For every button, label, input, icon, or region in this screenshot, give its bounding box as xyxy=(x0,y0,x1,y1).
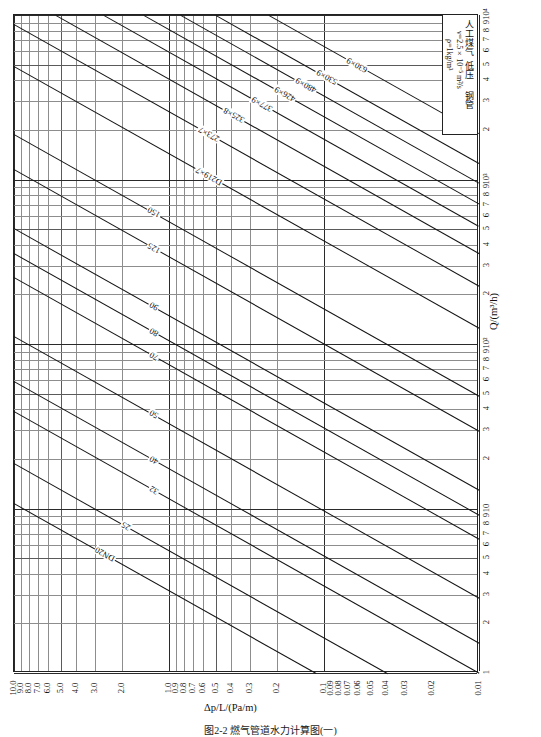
pressure-tick-22: 0.06 xyxy=(353,681,362,696)
pipe-label-80: 80 xyxy=(147,325,161,338)
pressure-tick-16: 0.3 xyxy=(245,683,254,694)
flow-tick-32: 6 xyxy=(482,48,491,52)
pipe-label-3258: 325×8 xyxy=(221,105,247,125)
pipe-label-32: 32 xyxy=(147,483,161,496)
flow-tick-27: 10³ xyxy=(482,173,491,184)
pipe-line-25 xyxy=(14,463,388,674)
pipe-label-2737: 273×7 xyxy=(196,124,222,144)
flow-tick-19: 2 xyxy=(482,291,491,295)
flow-tick-11: 3 xyxy=(482,427,491,431)
flow-tick-33: 7 xyxy=(482,37,491,41)
pipe-line-D2197 xyxy=(14,66,479,328)
pipe-line-125 xyxy=(14,169,479,431)
pipe-label-40: 40 xyxy=(147,453,161,466)
pipe-label-3779: 377×9 xyxy=(249,94,275,114)
flow-tick-23: 6 xyxy=(482,213,491,217)
flow-tick-1: 2 xyxy=(482,620,491,624)
pressure-tick-8: 2.0 xyxy=(117,683,126,694)
pressure-tick-4: 6.0 xyxy=(43,683,52,694)
flow-tick-22: 5 xyxy=(482,226,491,230)
legend-line-2: 低压 xyxy=(463,61,476,79)
legend-box: 人工煤气 低压 钢管 ν=2.5×10⁻⁵ m²/s ρ=1kg/m³ xyxy=(442,14,478,135)
legend-line-1: 人工煤气 xyxy=(463,20,476,56)
pressure-tick-7: 3.0 xyxy=(90,683,99,694)
pipe-line-2737 xyxy=(14,24,479,286)
flow-tick-13: 5 xyxy=(482,390,491,394)
pipe-label-DN20: DN20 xyxy=(92,544,117,563)
flow-tick-3: 4 xyxy=(482,571,491,575)
flow-tick-17: 9 xyxy=(482,348,491,352)
flow-tick-7: 8 xyxy=(482,521,491,525)
pipe-label-125: 125 xyxy=(145,240,163,255)
pressure-tick-27: 0.01 xyxy=(474,681,483,696)
legend-density: ρ=1kg/m³ xyxy=(445,39,454,70)
flow-tick-20: 3 xyxy=(482,262,491,266)
flow-tick-10: 2 xyxy=(482,456,491,460)
flow-tick-15: 7 xyxy=(482,366,491,370)
flow-tick-29: 3 xyxy=(482,98,491,102)
flow-tick-2: 3 xyxy=(482,591,491,595)
figure-caption: 图2-2 燃气管道水力计算图(一) xyxy=(0,722,541,737)
flow-tick-31: 5 xyxy=(482,61,491,65)
flow-tick-0: 1 xyxy=(482,670,491,674)
flow-tick-14: 6 xyxy=(482,377,491,381)
plot-area: DN2025324050708090125150D219×7273×7325×8… xyxy=(13,14,478,672)
flow-tick-5: 6 xyxy=(482,542,491,546)
nomogram-chart: DN2025324050708090125150D219×7273×7325×8… xyxy=(13,14,478,672)
flow-tick-25: 8 xyxy=(482,192,491,196)
legend-line-3: 钢管 xyxy=(463,91,476,109)
pipe-line-80 xyxy=(14,253,479,515)
pressure-tick-24: 0.04 xyxy=(380,681,389,696)
pressure-tick-14: 0.5 xyxy=(210,683,219,694)
pressure-tick-13: 0.6 xyxy=(198,683,207,694)
pipe-line-40 xyxy=(14,381,479,643)
flow-tick-35: 9 xyxy=(482,19,491,23)
flow-tick-12: 4 xyxy=(482,406,491,410)
flow-tick-36: 10⁴ xyxy=(482,8,491,19)
pressure-tick-15: 0.4 xyxy=(225,683,234,694)
flow-tick-34: 8 xyxy=(482,28,491,32)
pressure-tick-17: 0.2 xyxy=(272,683,281,694)
pressure-tick-5: 5.0 xyxy=(55,683,64,694)
legend-viscosity: ν=2.5×10⁻⁵ m²/s xyxy=(455,31,464,89)
pressure-tick-21: 0.07 xyxy=(343,681,352,696)
flow-tick-18: 10² xyxy=(482,337,491,348)
pressure-tick-12: 0.7 xyxy=(188,683,197,694)
pressure-tick-6: 4.0 xyxy=(70,683,79,694)
flow-tick-8: 9 xyxy=(482,513,491,517)
pipe-line-DN20 xyxy=(14,503,317,674)
pipe-label-D2197: D219×7 xyxy=(194,164,225,187)
flow-tick-4: 5 xyxy=(482,555,491,559)
pipe-label-6309: 630×9 xyxy=(344,55,370,75)
flow-tick-6: 7 xyxy=(482,531,491,535)
pressure-tick-26: 0.02 xyxy=(427,681,436,696)
pressure-axis-title: Δp/L/(Pa/m) xyxy=(204,702,257,713)
flow-tick-30: 4 xyxy=(482,77,491,81)
flow-axis-title: Q/(m³/h) xyxy=(488,293,499,330)
flow-tick-28: 2 xyxy=(482,127,491,131)
flow-tick-9: 10 xyxy=(482,503,491,512)
pipe-line-5309 xyxy=(216,15,479,164)
pipe-line-50 xyxy=(14,336,479,598)
pipe-label-5309: 530×9 xyxy=(314,67,340,87)
pressure-tick-25: 0.03 xyxy=(400,681,409,696)
flow-tick-16: 8 xyxy=(482,357,491,361)
pressure-tick-23: 0.05 xyxy=(365,681,374,696)
flow-tick-24: 7 xyxy=(482,202,491,206)
pressure-tick-3: 7.0 xyxy=(33,683,42,694)
pipe-label-4809: 480×9 xyxy=(293,75,319,95)
flow-tick-21: 4 xyxy=(482,242,491,246)
